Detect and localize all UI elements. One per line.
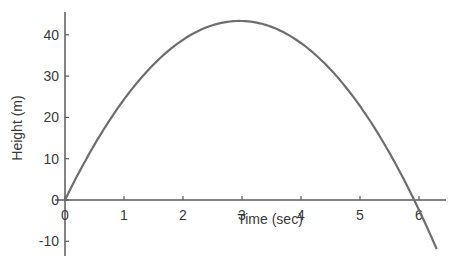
y-tick-label: -10 bbox=[39, 233, 59, 249]
y-tick-label: 40 bbox=[43, 27, 59, 43]
x-tick-label: 1 bbox=[120, 207, 128, 223]
x-axis-title: Time (sec) bbox=[237, 211, 303, 227]
x-tick-label: 2 bbox=[179, 207, 187, 223]
y-tick-label: 0 bbox=[51, 192, 59, 208]
y-axis-title: Height (m) bbox=[9, 95, 25, 160]
y-tick-label: 30 bbox=[43, 68, 59, 84]
x-tick-label: 0 bbox=[61, 207, 69, 223]
y-tick-label: 20 bbox=[43, 109, 59, 125]
height-vs-time-chart: 0123456 -10010203040 Time (sec) Height (… bbox=[0, 0, 455, 264]
y-tick-label: 10 bbox=[43, 151, 59, 167]
x-tick-label: 5 bbox=[356, 207, 364, 223]
